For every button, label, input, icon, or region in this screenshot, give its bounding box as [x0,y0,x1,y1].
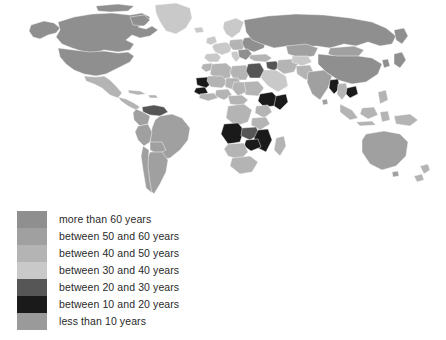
world-map-svg[interactable] [0,0,446,200]
region-tasmania[interactable] [392,171,399,177]
legend-row[interactable]: between 10 and 20 years [17,296,417,313]
legend-label: more than 60 years [59,211,151,228]
region-sri-lanka[interactable] [322,99,328,105]
legend-swatch [17,296,47,313]
legend-label: between 20 and 30 years [59,279,179,296]
region-hispaniola[interactable] [148,95,158,98]
region-iceland[interactable] [194,27,204,33]
legend-swatch [17,245,47,262]
legend-row[interactable]: less than 10 years [17,313,417,330]
legend-swatch [17,279,47,296]
legend-label: less than 10 years [59,313,146,330]
legend-swatch [17,211,47,228]
legend-row[interactable]: between 20 and 30 years [17,279,417,296]
region-java[interactable] [356,121,376,126]
region-egypt[interactable] [246,63,264,78]
region-sulawesi[interactable] [380,111,390,122]
legend-row[interactable]: more than 60 years [17,211,417,228]
legend-swatch [17,262,47,279]
legend-label: between 10 and 20 years [59,296,179,313]
figure-canvas: more than 60 years between 50 and 60 yea… [0,0,446,340]
world-map[interactable] [0,0,446,200]
legend-row[interactable]: between 40 and 50 years [17,245,417,262]
legend-row[interactable]: between 30 and 40 years [17,262,417,279]
legend-label: between 30 and 40 years [59,262,179,279]
legend-label: between 50 and 60 years [59,228,179,245]
legend-row[interactable]: between 50 and 60 years [17,228,417,245]
legend-swatch [17,313,47,330]
legend-swatch [17,228,47,245]
map-legend: more than 60 years between 50 and 60 yea… [17,211,417,330]
legend-label: between 40 and 50 years [59,245,179,262]
